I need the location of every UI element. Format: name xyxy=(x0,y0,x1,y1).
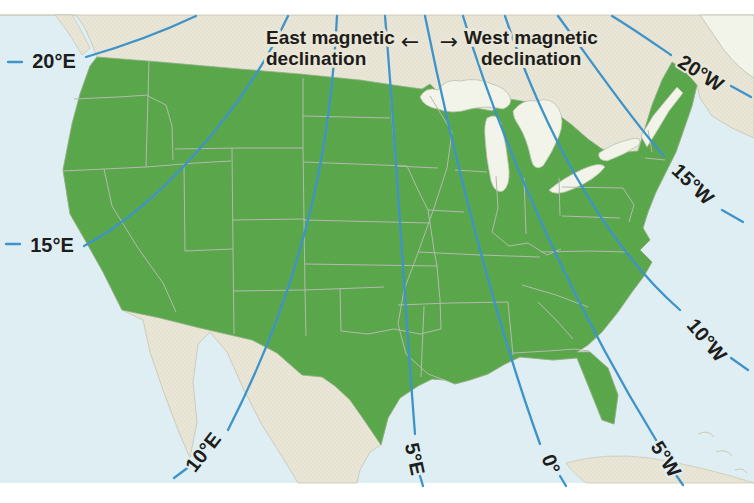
map-canvas: 20°E 15°E 10°E 5°E 0° 5°W 10°W 15°W 20°W… xyxy=(0,0,754,503)
label-15e: 15°E xyxy=(30,234,74,256)
right-arrow-icon: → xyxy=(440,29,458,54)
legend-west-line2: declination xyxy=(481,48,581,69)
label-20e: 20°E xyxy=(32,50,76,72)
figure-isogonic-map: 20°E 15°E 10°E 5°E 0° 5°W 10°W 15°W 20°W… xyxy=(0,0,754,503)
legend-west-line1: West magnetic xyxy=(464,27,598,48)
legend-east-line2: declination xyxy=(266,48,366,69)
left-arrow-icon: ← xyxy=(401,29,419,54)
legend-east-line1: East magnetic xyxy=(266,27,395,48)
